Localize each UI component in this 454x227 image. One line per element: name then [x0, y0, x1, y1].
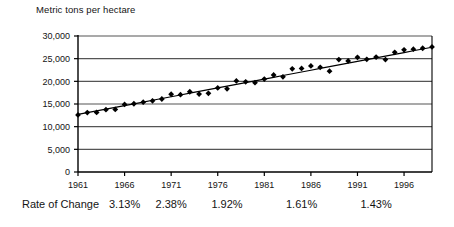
data-point	[159, 96, 165, 102]
rate-of-change-value: 1.92%	[211, 198, 242, 210]
chart-figure: Metric tons per hectare 30,00025,00020,0…	[0, 0, 454, 227]
y-axis-tick-label: 20,000	[42, 77, 70, 87]
rate-of-change-value: 1.61%	[286, 198, 317, 210]
x-axis-tick-label: 1971	[161, 180, 181, 190]
x-axis-tick-label: 1961	[68, 180, 88, 190]
x-axis-tick-label: 1966	[115, 180, 135, 190]
x-axis-tick-label: 1986	[301, 180, 321, 190]
data-point	[150, 98, 156, 104]
data-point	[327, 68, 333, 74]
data-point	[429, 44, 435, 50]
y-axis-tick-label: 0	[65, 167, 70, 177]
data-point	[299, 66, 305, 72]
rate-of-change-value: 1.43%	[360, 198, 391, 210]
x-axis-tick-label: 1981	[254, 180, 274, 190]
data-point	[383, 57, 389, 63]
data-point	[364, 56, 370, 62]
rate-of-change-label: Rate of Change	[22, 198, 99, 210]
rate-of-change-value: 3.13%	[109, 198, 140, 210]
data-point	[75, 112, 81, 118]
data-point	[215, 85, 221, 91]
x-axis-tick-label: 1996	[394, 180, 414, 190]
x-axis-tick-label: 1991	[347, 180, 367, 190]
y-axis-tick-label: 25,000	[42, 54, 70, 64]
data-point	[289, 66, 295, 72]
data-point	[420, 45, 426, 51]
y-axis-tick-label: 15,000	[42, 99, 70, 109]
data-point	[233, 78, 239, 84]
y-axis-tick-label: 30,000	[42, 31, 70, 41]
x-axis-tick-label: 1976	[208, 180, 228, 190]
y-axis-tick-label: 10,000	[42, 122, 70, 132]
data-point	[178, 92, 184, 98]
data-point	[84, 110, 90, 116]
chart-plot-area: 30,00025,00020,00015,00010,0005,00001961…	[0, 0, 454, 227]
data-point	[355, 54, 361, 60]
data-point	[131, 101, 137, 107]
y-axis-tick-label: 5,000	[47, 145, 70, 155]
data-point	[243, 79, 249, 85]
data-point	[336, 57, 342, 63]
data-point	[206, 90, 212, 96]
data-point	[308, 63, 314, 69]
data-point	[103, 107, 109, 113]
rate-of-change-row: Rate of Change 3.13%2.38%1.92%1.61%1.43%	[0, 196, 454, 220]
rate-of-change-value: 2.38%	[156, 198, 187, 210]
